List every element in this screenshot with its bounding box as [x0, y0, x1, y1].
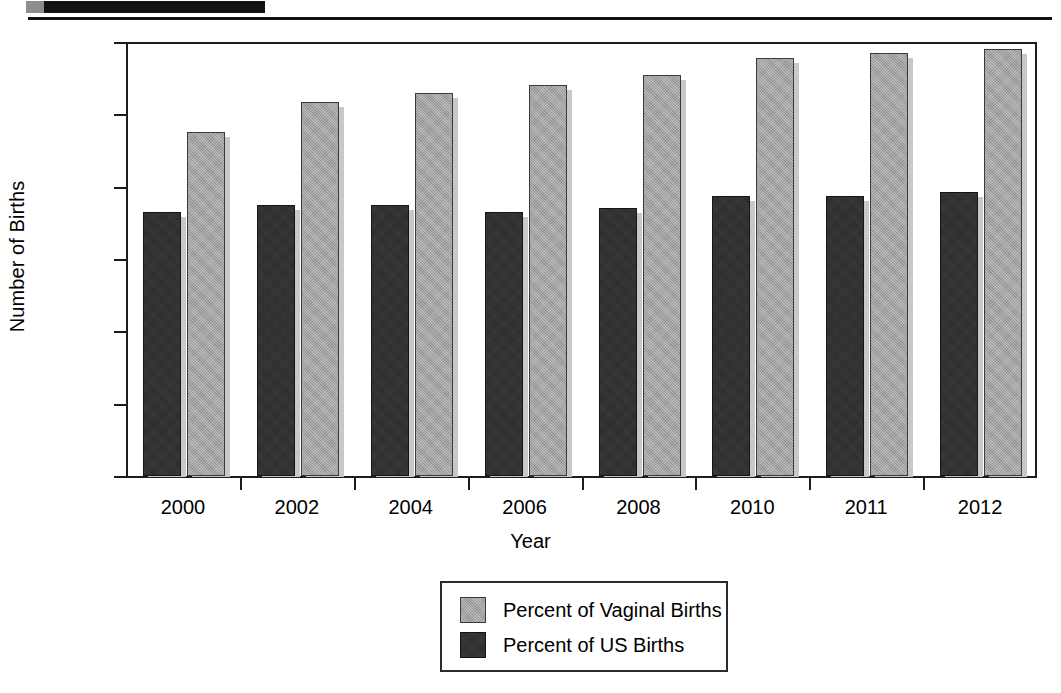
bar[interactable] — [756, 58, 794, 476]
legend-item[interactable]: Percent of US Births — [460, 630, 684, 660]
bar[interactable] — [599, 208, 637, 476]
plot-area — [126, 42, 1037, 478]
x-axis-tick-label: 2008 — [578, 497, 698, 517]
y-axis-tick-mark — [114, 187, 126, 189]
x-axis-tick-label: 2010 — [692, 497, 812, 517]
bar[interactable] — [187, 132, 225, 476]
x-axis-tick-label: 2012 — [920, 497, 1040, 517]
x-axis-tick-label: 2006 — [465, 497, 585, 517]
legend-label: Percent of Vaginal Births — [503, 599, 722, 622]
bar[interactable] — [301, 102, 339, 476]
bar[interactable] — [257, 205, 295, 476]
y-axis-tick-mark — [114, 42, 126, 44]
bar[interactable] — [485, 212, 523, 476]
bar[interactable] — [643, 75, 681, 476]
bar[interactable] — [940, 192, 978, 476]
x-axis-tick-mark — [582, 478, 584, 490]
x-axis-tick-label: 2004 — [351, 497, 471, 517]
x-axis-tick-mark — [809, 478, 811, 490]
legend-item[interactable]: Percent of Vaginal Births — [460, 595, 722, 625]
x-axis-tick-label: 2002 — [237, 497, 357, 517]
x-axis-tick-mark — [240, 478, 242, 490]
y-axis-tick-mark — [114, 259, 126, 261]
bar[interactable] — [826, 196, 864, 476]
x-axis-tick-mark — [695, 478, 697, 490]
x-axis-tick-label: 2000 — [123, 497, 243, 517]
chart-page: Number of Births 12%10%8%6%4%2%0 2000200… — [0, 0, 1061, 693]
header-rule — [28, 17, 1052, 20]
bars-container — [128, 44, 1035, 476]
y-axis-tick-mark — [114, 114, 126, 116]
bar[interactable] — [870, 53, 908, 476]
bar[interactable] — [712, 196, 750, 476]
y-axis-title: Number of Births — [6, 127, 29, 387]
x-axis-tick-label: 2011 — [806, 497, 926, 517]
bar[interactable] — [529, 85, 567, 476]
legend-label: Percent of US Births — [503, 634, 684, 657]
y-axis-tick-mark — [114, 404, 126, 406]
redaction-bar-lead — [26, 1, 44, 13]
y-axis-tick-mark — [114, 331, 126, 333]
x-axis-tick-mark — [923, 478, 925, 490]
bar[interactable] — [371, 205, 409, 476]
x-axis-tick-mark — [354, 478, 356, 490]
legend-swatch — [460, 597, 486, 623]
bar[interactable] — [415, 93, 453, 476]
legend-swatch — [460, 632, 486, 658]
y-axis-tick-mark — [114, 476, 126, 478]
redaction-bar — [26, 1, 265, 13]
bar[interactable] — [984, 49, 1022, 476]
x-axis-tick-mark — [468, 478, 470, 490]
x-axis-title: Year — [0, 530, 1061, 553]
chart-legend: Percent of Vaginal BirthsPercent of US B… — [440, 581, 728, 672]
bar[interactable] — [143, 212, 181, 476]
